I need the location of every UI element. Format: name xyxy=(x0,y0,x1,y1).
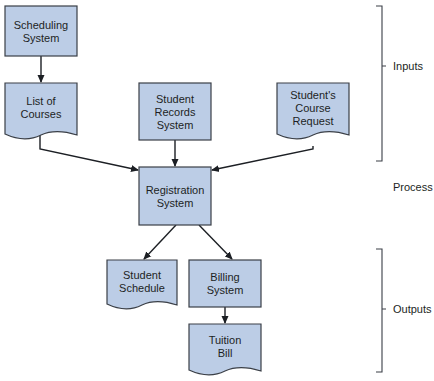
flowchart-canvas: SchedulingSystemList ofCoursesStudentRec… xyxy=(0,0,434,381)
node-label: Scheduling xyxy=(14,19,68,31)
node-courses: List ofCourses xyxy=(5,83,77,139)
node-label: System xyxy=(157,119,194,131)
sections-layer: InputsProcessOutputs xyxy=(376,6,433,372)
node-records: StudentRecordsSystem xyxy=(139,83,211,140)
section-label-inputs: Inputs xyxy=(393,60,423,72)
bracket-outputs xyxy=(376,249,386,372)
node-label: Course xyxy=(295,102,330,114)
section-inputs: Inputs xyxy=(376,6,423,161)
arrow-request-to-registration xyxy=(212,146,313,170)
node-label: Records xyxy=(155,106,196,118)
section-process: Process xyxy=(393,181,433,193)
arrow-registration-to-billing xyxy=(199,225,232,259)
node-label: System xyxy=(23,32,60,44)
node-registration: RegistrationSystem xyxy=(139,167,211,225)
node-label: System xyxy=(207,284,244,296)
node-request: Student'sCourseRequest xyxy=(277,83,349,139)
nodes-layer: SchedulingSystemList ofCoursesStudentRec… xyxy=(5,6,349,375)
arrow-registration-to-schedule xyxy=(144,225,176,259)
bracket-inputs xyxy=(376,6,386,161)
node-billing: BillingSystem xyxy=(189,260,261,307)
node-schedule: StudentSchedule xyxy=(107,260,177,309)
node-tuition: TuitionBill xyxy=(189,324,261,375)
node-label: Student's xyxy=(290,89,336,101)
node-label: Student xyxy=(156,93,194,105)
node-label: Schedule xyxy=(119,282,165,294)
node-label: Billing xyxy=(210,271,239,283)
node-scheduling: SchedulingSystem xyxy=(5,6,77,56)
node-label: List of xyxy=(26,95,56,107)
section-label-outputs: Outputs xyxy=(393,303,432,315)
node-label: Courses xyxy=(21,108,62,120)
node-label: Request xyxy=(293,115,334,127)
arrow-courses-to-registration xyxy=(40,133,138,170)
node-label: Student xyxy=(123,269,161,281)
section-outputs: Outputs xyxy=(376,249,432,372)
section-label-process: Process xyxy=(393,181,433,193)
node-label: System xyxy=(157,197,194,209)
node-label: Bill xyxy=(218,347,233,359)
node-label: Tuition xyxy=(209,334,242,346)
node-label: Registration xyxy=(146,184,205,196)
